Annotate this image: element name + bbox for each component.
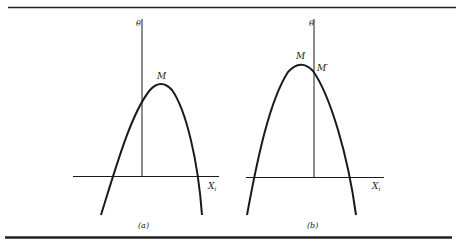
panel-caption: (b) [307, 221, 318, 230]
panel-a: θ M Xi (a) [73, 19, 219, 230]
parabola-curve [247, 65, 356, 215]
point-m-prime-label: M′ [316, 63, 328, 73]
point-m-label: M [295, 51, 306, 61]
x-axis-label: Xi [207, 181, 216, 192]
panel-caption: (a) [138, 221, 149, 230]
theta-label: θ [309, 19, 314, 28]
point-m-label: M [156, 71, 167, 81]
theta-label: θ [136, 19, 141, 28]
x-axis-label: Xi [371, 181, 380, 192]
x-axis-label-subscript: i [378, 185, 380, 192]
figure: θ M Xi (a) θ M M′ Xi (b) [0, 0, 464, 243]
parabola-curve [101, 84, 202, 215]
x-axis-label-subscript: i [214, 185, 216, 192]
panel-b: θ M M′ Xi (b) [246, 19, 384, 230]
